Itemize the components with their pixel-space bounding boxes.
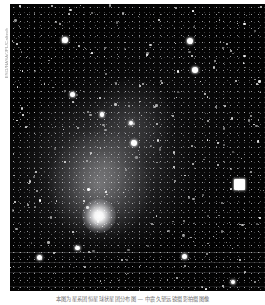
- field-star: [139, 85, 141, 87]
- field-star: [126, 259, 128, 261]
- field-star: [205, 288, 207, 290]
- field-star: [226, 43, 228, 45]
- field-star: [174, 180, 176, 182]
- field-star: [33, 176, 35, 178]
- field-star: [216, 108, 217, 109]
- field-star: [147, 245, 149, 247]
- field-star: [88, 251, 90, 253]
- field-star: [123, 192, 124, 193]
- field-star: [138, 150, 139, 151]
- field-star: [15, 228, 18, 231]
- field-star: [68, 13, 70, 15]
- field-star: [254, 30, 256, 32]
- field-star: [239, 259, 241, 261]
- field-star: [167, 279, 168, 280]
- field-star: [125, 169, 127, 171]
- field-star: [213, 236, 214, 237]
- field-star: [89, 114, 92, 117]
- field-star: [12, 40, 13, 41]
- field-star: [218, 226, 219, 227]
- field-star: [184, 175, 185, 176]
- field-star: [243, 62, 244, 63]
- field-star: [14, 201, 15, 202]
- star-8: [182, 254, 187, 259]
- field-star: [219, 19, 220, 20]
- field-star: [173, 166, 175, 168]
- field-star: [232, 53, 234, 55]
- field-star: [52, 87, 54, 89]
- field-star: [56, 200, 58, 202]
- field-star: [257, 140, 259, 142]
- field-star: [22, 114, 24, 116]
- field-star: [22, 70, 24, 72]
- field-star: [193, 223, 194, 224]
- field-star: [203, 159, 205, 161]
- field-star: [102, 124, 104, 126]
- field-star: [76, 94, 78, 96]
- field-star: [122, 12, 124, 14]
- field-star: [80, 5, 81, 6]
- field-star: [161, 82, 162, 83]
- field-star: [182, 234, 184, 236]
- field-star: [16, 38, 17, 39]
- field-star: [192, 10, 194, 12]
- field-star: [117, 54, 118, 55]
- field-star: [207, 243, 208, 244]
- field-star: [16, 120, 18, 122]
- field-star: [114, 103, 117, 106]
- field-star: [175, 7, 177, 9]
- field-star: [104, 129, 106, 131]
- field-star: [72, 231, 74, 233]
- field-star: [44, 83, 45, 84]
- field-star: [31, 242, 33, 244]
- field-star: [230, 168, 232, 170]
- field-star: [254, 79, 256, 81]
- field-star: [90, 53, 92, 55]
- field-star: [36, 190, 38, 192]
- field-star: [217, 164, 219, 166]
- field-star: [102, 226, 104, 228]
- field-star: [260, 175, 262, 177]
- field-star: [26, 57, 27, 58]
- field-star: [258, 120, 259, 121]
- field-star: [260, 92, 261, 93]
- field-star: [51, 5, 53, 7]
- field-star: [230, 188, 232, 190]
- field-star: [165, 140, 166, 141]
- field-star: [124, 48, 126, 50]
- field-star: [19, 5, 21, 7]
- field-star: [243, 209, 244, 210]
- field-star: [156, 162, 158, 164]
- field-star: [34, 70, 36, 72]
- field-star: [99, 97, 101, 99]
- star-11: [231, 280, 235, 284]
- field-star: [201, 286, 203, 288]
- field-star: [218, 215, 220, 217]
- star-6: [70, 92, 75, 97]
- field-star: [67, 22, 68, 23]
- field-star: [101, 283, 102, 284]
- field-star: [21, 107, 24, 110]
- field-star: [259, 217, 261, 219]
- field-star: [50, 216, 52, 218]
- field-star: [229, 222, 230, 223]
- field-star: [235, 80, 237, 82]
- field-star: [232, 248, 233, 249]
- field-star: [104, 56, 105, 57]
- field-star: [63, 129, 64, 130]
- field-star: [86, 49, 87, 50]
- field-star: [100, 280, 101, 281]
- field-star: [159, 148, 162, 151]
- field-star: [71, 94, 72, 95]
- field-star: [218, 12, 219, 13]
- page-root: ESO/NASA/JPL/Caltech 本图为星系团恒星球状星团分布图 — 中…: [0, 0, 265, 305]
- field-star: [27, 204, 29, 206]
- field-star: [39, 199, 42, 202]
- field-star: [260, 6, 262, 8]
- field-star: [149, 44, 151, 46]
- field-star: [253, 124, 254, 125]
- field-star: [153, 106, 155, 108]
- field-star: [135, 156, 138, 159]
- field-star: [142, 83, 144, 85]
- field-star: [248, 119, 250, 121]
